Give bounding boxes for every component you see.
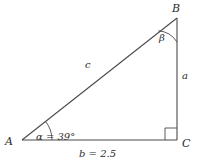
vertex-label-a: A [5,136,13,147]
vertex-label-b: B [172,3,180,14]
angle-label-beta: β [159,33,165,43]
triangle-diagram: A B C a b = 2.5 c α = 39° β [0,0,200,165]
triangle-graphic [0,0,200,165]
side-label-b: b = 2.5 [79,149,116,159]
side-label-a: a [182,71,188,81]
right-angle-marker [165,128,177,140]
vertex-label-c: C [182,138,190,149]
angle-label-alpha: α = 39° [36,132,75,142]
side-label-c: c [85,60,91,70]
